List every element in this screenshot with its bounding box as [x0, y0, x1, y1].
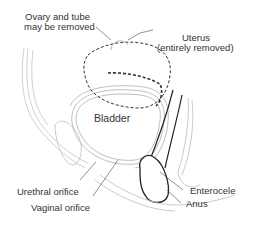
- label-anus: Anus: [186, 199, 208, 209]
- ovary-shape: [111, 41, 128, 50]
- diagram-canvas: Ovary and tube may be removed Uterus (en…: [0, 0, 253, 229]
- enterocele-pouch: [140, 156, 169, 203]
- label-bladder: Bladder: [94, 113, 130, 123]
- label-ovary-line2: may be removed: [24, 22, 95, 32]
- bladder-outline: [70, 86, 168, 168]
- abdominal-wall-lines: [22, 48, 88, 168]
- label-urethral-orifice: Urethral orifice: [17, 187, 79, 197]
- label-enterocele: Enterocele: [190, 186, 235, 196]
- label-uterus-line2: (entirely removed): [157, 43, 234, 53]
- label-vaginal-orifice: Vaginal orifice: [31, 203, 90, 213]
